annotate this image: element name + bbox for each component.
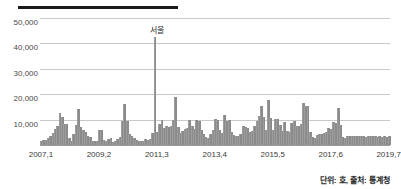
plot-area: 서울: [40, 18, 390, 145]
x-axis-tick-label: 2013,4: [203, 150, 227, 159]
x-axis-tick-label: 2015,5: [261, 150, 285, 159]
x-axis-labels: 2007,12009,22011,32013,42015,52017,62019…: [40, 150, 390, 164]
x-axis-tick-label: 2007,1: [29, 150, 53, 159]
x-axis-tick-label: 2009,2: [87, 150, 111, 159]
peak-annotation-label: 서울: [150, 24, 164, 35]
y-axis-tick-label: 20,000: [2, 94, 38, 103]
chart-container: 10,00020,00030,00040,00050,000 서울: [0, 14, 398, 148]
y-axis-tick-label: 50,000: [2, 18, 38, 27]
top-rule-divider: [18, 6, 178, 9]
x-axis-tick-label: 2019,7: [376, 150, 400, 159]
y-axis-tick-label: 40,000: [2, 43, 38, 52]
x-axis-tick-label: 2017,6: [318, 150, 342, 159]
y-axis-labels: 10,00020,00030,00040,00050,000: [0, 18, 38, 145]
bar: [388, 136, 391, 145]
x-axis-tick-label: 2011,3: [145, 150, 169, 159]
y-axis-tick-label: 10,000: [2, 119, 38, 128]
bars-group: [40, 18, 390, 145]
bar: [154, 37, 157, 145]
y-axis-tick-label: 30,000: [2, 68, 38, 77]
x-axis-line: [40, 145, 390, 146]
source-note: 단위: 호, 출처: 통계청: [320, 174, 390, 185]
